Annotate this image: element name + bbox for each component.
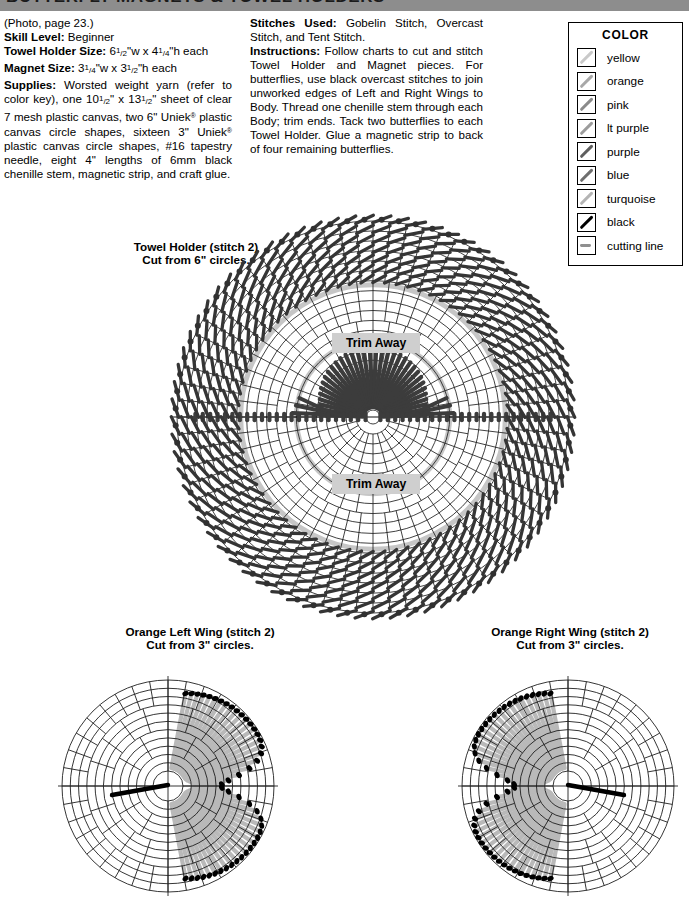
yarn-swatch-icon <box>577 189 596 208</box>
color-key-row-blue: blue <box>569 164 682 188</box>
color-key-row-yellow: yellow <box>569 46 682 70</box>
color-key-label: lt purple <box>607 121 649 135</box>
color-key-label: yellow <box>607 51 640 65</box>
page-header-band: BUTTERFLY MAGNETS & TOWEL HOLDERS <box>0 0 689 11</box>
caption-line-1: Orange Right Wing (stitch 2) <box>450 625 689 638</box>
yarn-swatch-icon <box>577 213 596 232</box>
yarn-swatch-icon <box>577 142 596 161</box>
caption-line-2: Cut from 3" circles. <box>450 638 689 651</box>
color-key-box: COLOR yellow orange pink lt purple purpl… <box>568 22 683 266</box>
color-key-row-turquoise: turquoise <box>569 187 682 211</box>
instructions-value: Follow charts to cut and stitch Towel Ho… <box>250 44 483 155</box>
magnet-size-line: Magnet Size: 31/4"w x 31/2"h each <box>4 61 232 78</box>
color-key-label: pink <box>607 98 629 112</box>
supplies-line: Supplies: Worsted weight yarn (refer to … <box>4 78 232 181</box>
page-header-title: BUTTERFLY MAGNETS & TOWEL HOLDERS <box>6 0 385 7</box>
left-wing-caption: Orange Left Wing (stitch 2) Cut from 3" … <box>80 625 320 652</box>
towel-holder-size-label: Towel Holder Size: <box>4 44 106 57</box>
left-text-column: (Photo, page 23.) Skill Level: Beginner … <box>4 16 232 181</box>
towel-holder-chart <box>168 212 578 622</box>
color-key-row-cutting-line: cutting line <box>569 234 682 258</box>
yarn-swatch-icon <box>577 72 596 91</box>
color-key-row-pink: pink <box>569 93 682 117</box>
color-key-row-black: black <box>569 211 682 235</box>
stitches-used-line: Stitches Used: Gobelin Stitch, Overcast … <box>250 16 483 44</box>
color-key-row-purple: purple <box>569 140 682 164</box>
skill-level-label: Skill Level: <box>4 30 65 43</box>
pattern-page: BUTTERFLY MAGNETS & TOWEL HOLDERS (Photo… <box>0 0 689 914</box>
yarn-swatch-icon <box>577 95 596 114</box>
stitches-used-label: Stitches Used: <box>250 16 337 29</box>
photo-note: (Photo, page 23.) <box>4 16 232 30</box>
color-key-title: COLOR <box>569 28 682 42</box>
right-wing-chart <box>452 668 684 908</box>
right-text-column: Stitches Used: Gobelin Stitch, Overcast … <box>250 16 483 156</box>
color-key-label: blue <box>607 168 629 182</box>
caption-line-1: Orange Left Wing (stitch 2) <box>80 625 320 638</box>
instructions-label: Instructions: <box>250 44 320 57</box>
instructions-line: Instructions: Follow charts to cut and s… <box>250 44 483 156</box>
color-key-label: turquoise <box>607 192 656 206</box>
color-key-row-orange: orange <box>569 70 682 94</box>
trim-away-label-top: Trim Away <box>332 333 420 353</box>
skill-level-line: Skill Level: Beginner <box>4 30 232 44</box>
right-wing-caption: Orange Right Wing (stitch 2) Cut from 3"… <box>450 625 689 652</box>
color-key-label: orange <box>607 74 644 88</box>
left-wing-chart <box>52 668 284 908</box>
color-key-label: black <box>607 215 635 229</box>
color-key-label: cutting line <box>607 239 663 253</box>
yarn-swatch-icon <box>577 119 596 138</box>
trim-away-label-bottom: Trim Away <box>332 474 420 494</box>
magnet-size-label: Magnet Size: <box>4 61 75 74</box>
yarn-swatch-icon <box>577 48 596 67</box>
yarn-swatch-icon <box>577 166 596 185</box>
cutting-line-swatch-icon <box>577 236 596 255</box>
color-key-label: purple <box>607 145 640 159</box>
color-key-row-lt-purple: lt purple <box>569 117 682 141</box>
skill-level-value: Beginner <box>68 30 114 43</box>
towel-holder-size-line: Towel Holder Size: 61/2"w x 41/4"h each <box>4 44 232 61</box>
supplies-label: Supplies: <box>4 78 56 91</box>
caption-line-2: Cut from 3" circles. <box>80 638 320 651</box>
